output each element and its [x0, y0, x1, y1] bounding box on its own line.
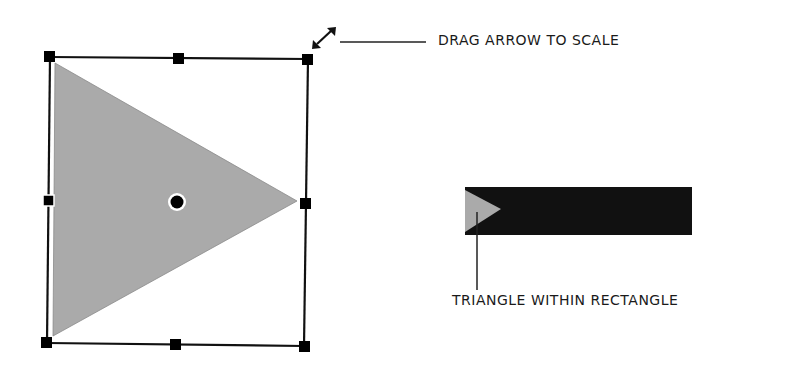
- handle-bottom-right[interactable]: [299, 341, 310, 352]
- triangle-within-rectangle-label: TRIANGLE WITHIN RECTANGLE: [452, 292, 678, 308]
- handle-top-left[interactable]: [44, 51, 55, 62]
- handle-middle-left[interactable]: [43, 195, 54, 206]
- black-rectangle: [465, 187, 692, 235]
- center-point-icon[interactable]: [168, 193, 186, 211]
- handle-bottom-left[interactable]: [41, 337, 52, 348]
- handle-middle-right[interactable]: [300, 198, 311, 209]
- handle-bottom-middle[interactable]: [170, 339, 181, 350]
- handle-top-right[interactable]: [302, 54, 313, 65]
- diagram-canvas: [0, 0, 803, 371]
- handle-top-middle[interactable]: [173, 53, 184, 64]
- diagonal-resize-arrow-icon[interactable]: [312, 27, 336, 49]
- drag-arrow-label: DRAG ARROW TO SCALE: [438, 32, 619, 48]
